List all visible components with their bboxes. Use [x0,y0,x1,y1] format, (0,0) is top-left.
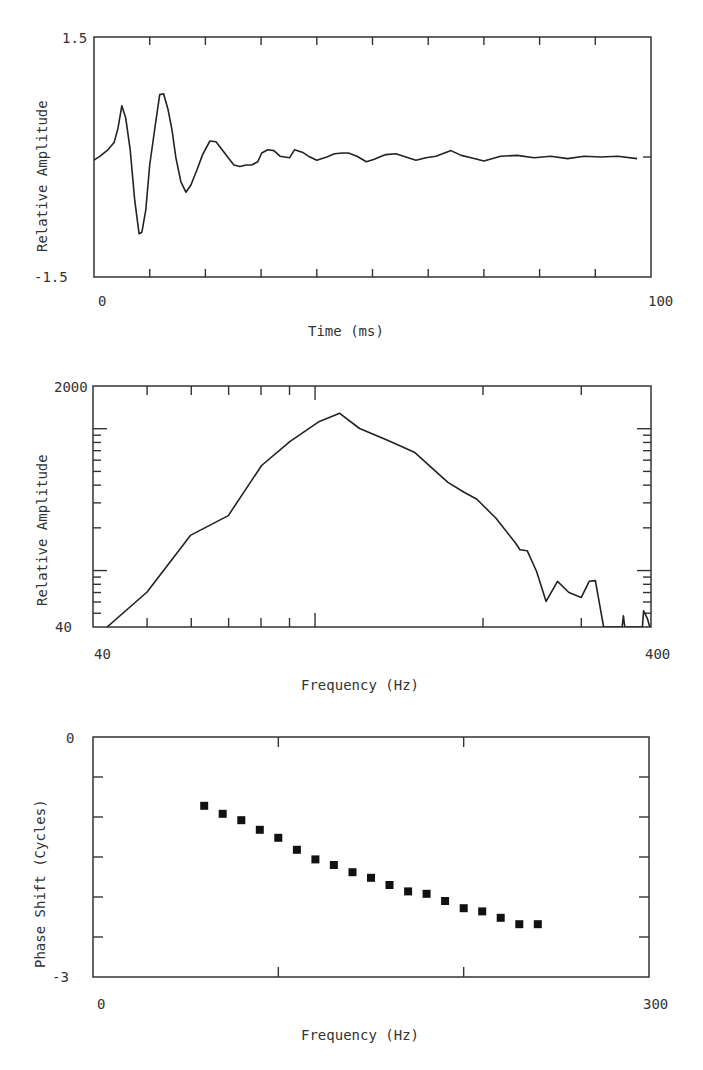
bottom-y-min-label: -3 [52,969,69,985]
phase-data-point [256,826,264,834]
top-x-axis-title: Time (ms) [308,323,384,339]
bottom-x-min-label: 0 [97,996,105,1012]
bottom-x-axis-title: Frequency (Hz) [301,1027,419,1043]
top-y-min-label: -1.5 [34,269,68,285]
bottom-phase-markers [200,802,542,928]
middle-spectrum-line [107,413,650,627]
phase-data-point [441,897,449,905]
phase-data-point [515,920,523,928]
phase-data-point [274,834,282,842]
phase-data-point [237,816,245,824]
middle-y-axis-title: Relative Amplitude [34,454,50,606]
top-waveform-line [94,94,637,234]
phase-data-point [311,855,319,863]
phase-data-point [330,861,338,869]
top-y-max-label: 1.5 [62,30,87,46]
top-x-max-label: 100 [648,293,673,309]
phase-data-point [497,914,505,922]
bottom-panel: 0 -3 0 300 Frequency (Hz) Phase Shift (C… [32,730,668,1043]
phase-data-point [478,907,486,915]
middle-y-max-label: 2000 [54,379,88,395]
phase-data-point [219,810,227,818]
phase-data-point [386,881,394,889]
middle-x-axis-title: Frequency (Hz) [301,677,419,693]
middle-y-min-label: 40 [55,619,72,635]
phase-data-point [460,904,468,912]
bottom-y-max-label: 0 [66,730,74,746]
middle-x-min-label: 40 [94,646,111,662]
bottom-y-axis-title: Phase Shift (Cycles) [32,799,48,968]
phase-data-point [293,846,301,854]
phase-data-point [367,874,375,882]
bottom-axis-ticks [93,737,649,977]
middle-x-max-label: 400 [645,646,670,662]
bottom-plot-frame [93,737,649,977]
top-plot-frame [94,37,651,277]
phase-data-point [200,802,208,810]
top-panel: 1.5 -1.5 0 100 Time (ms) Relative Amplit… [34,30,673,339]
top-y-axis-title: Relative Amplitude [34,100,50,252]
phase-data-point [349,868,357,876]
phase-data-point [534,920,542,928]
bottom-x-max-label: 300 [643,996,668,1012]
top-x-min-label: 0 [98,293,106,309]
figure: 1.5 -1.5 0 100 Time (ms) Relative Amplit… [0,0,703,1070]
phase-data-point [404,887,412,895]
middle-panel: 2000 40 40 400 Frequency (Hz) Relative A… [34,379,670,693]
phase-data-point [423,890,431,898]
